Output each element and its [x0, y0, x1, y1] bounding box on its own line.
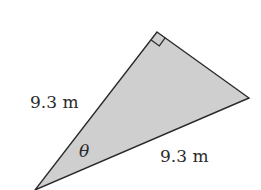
triangle-diagram: 9.3 m 9.3 m θ	[0, 0, 261, 190]
angle-theta-label: θ	[79, 143, 89, 160]
bottom-side-label: 9.3 m	[160, 148, 209, 165]
left-side-label: 9.3 m	[30, 94, 79, 111]
